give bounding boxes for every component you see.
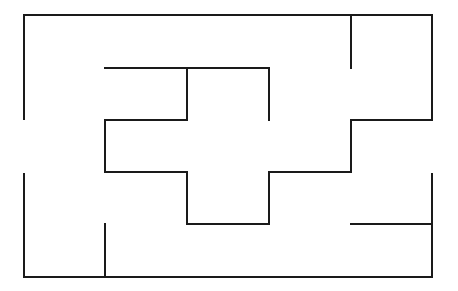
maze-diagram xyxy=(0,0,458,291)
